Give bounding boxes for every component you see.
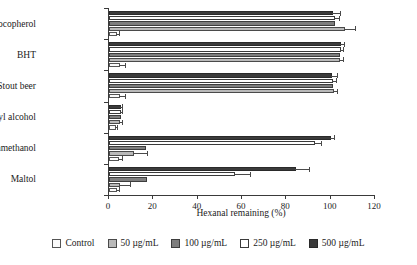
error-bar-cap <box>337 73 338 78</box>
bar <box>109 73 332 77</box>
x-axis-title: Hexanal remaining (%) <box>108 208 374 218</box>
error-bar-cap <box>336 78 337 83</box>
x-tick <box>152 195 153 199</box>
bar <box>109 79 333 83</box>
error-bar-line <box>314 143 321 144</box>
bar-chart-figure: Alpha-tocopherolBHTStout beerPhenylethyl… <box>0 0 417 265</box>
error-bar-cap <box>343 57 344 62</box>
y-tick <box>104 195 108 196</box>
bar <box>109 146 146 150</box>
error-bar-cap <box>343 47 344 52</box>
bar <box>109 53 340 57</box>
x-tick <box>241 195 242 199</box>
plot-area <box>108 8 374 195</box>
error-bar-cap <box>147 151 148 156</box>
bar <box>109 47 341 51</box>
error-bar-line <box>133 153 146 154</box>
x-tick <box>285 195 286 199</box>
legend-label: 500 µg/mL <box>322 238 365 248</box>
error-bar-cap <box>122 156 123 161</box>
x-tick <box>108 195 109 199</box>
error-bar-cap <box>334 135 335 140</box>
y-tick <box>104 39 108 40</box>
chart-legend: Control50 µg/mL100 µg/mL250 µg/mL500 µg/… <box>0 238 417 248</box>
error-bar-cap <box>337 89 338 94</box>
error-bar-line <box>295 169 308 170</box>
bar <box>109 167 296 171</box>
bar <box>109 21 335 25</box>
legend-label: 250 µg/mL <box>253 238 296 248</box>
swatch-100-icon <box>171 239 180 248</box>
error-bar-cap <box>250 172 251 177</box>
bar <box>109 42 341 46</box>
swatch-500-icon <box>309 239 318 248</box>
category-label: Phenylethyl alcohol <box>0 112 36 122</box>
category-label: Alpha-tocopherol <box>0 19 36 29</box>
category-label: Maltol <box>0 174 36 184</box>
error-bar-line <box>332 13 340 14</box>
error-bar-cap <box>117 125 118 130</box>
y-tick <box>104 102 108 103</box>
legend-item[interactable]: 50 µg/mL <box>108 238 159 248</box>
bar <box>109 151 134 155</box>
bar <box>109 58 340 62</box>
bar <box>109 141 315 145</box>
error-bar-cap <box>125 94 126 99</box>
error-bar-line <box>331 76 338 77</box>
error-bar-cap <box>344 42 345 47</box>
category-label: Stout beer <box>0 81 36 91</box>
swatch-250-icon <box>240 239 249 248</box>
bar <box>109 136 331 140</box>
y-tick <box>104 164 108 165</box>
x-tick <box>374 195 375 199</box>
x-tick <box>330 195 331 199</box>
bar <box>109 16 335 20</box>
bar <box>109 11 333 15</box>
error-bar-cap <box>339 16 340 21</box>
category-label: 2-furanmethanol <box>0 143 36 153</box>
error-bar-cap <box>122 120 123 125</box>
legend-item[interactable]: 250 µg/mL <box>240 238 296 248</box>
legend-label: 50 µg/mL <box>121 238 159 248</box>
error-bar-cap <box>122 109 123 114</box>
bar <box>109 115 121 119</box>
y-tick <box>104 133 108 134</box>
error-bar-line <box>119 185 130 186</box>
y-tick <box>104 8 108 9</box>
legend-label: 100 µg/mL <box>184 238 227 248</box>
error-bar-line <box>344 29 355 30</box>
error-bar-cap <box>309 167 310 172</box>
error-bar-cap <box>355 26 356 31</box>
y-tick <box>104 70 108 71</box>
bar <box>109 172 235 176</box>
bar <box>109 177 147 181</box>
legend-item[interactable]: 100 µg/mL <box>171 238 227 248</box>
x-tick <box>197 195 198 199</box>
error-bar-cap <box>340 11 341 16</box>
swatch-control-icon <box>52 239 61 248</box>
bar <box>109 89 334 93</box>
error-bar-cap <box>119 31 120 36</box>
error-bar-line <box>234 174 250 175</box>
error-bar-cap <box>321 141 322 146</box>
legend-label: Control <box>65 238 94 248</box>
legend-item[interactable]: 500 µg/mL <box>309 238 365 248</box>
legend-item[interactable]: Control <box>52 238 94 248</box>
category-label: BHT <box>0 50 36 60</box>
error-bar-cap <box>130 182 131 187</box>
bar <box>109 27 345 31</box>
bar <box>109 84 333 88</box>
error-bar-cap <box>119 187 120 192</box>
error-bar-cap <box>125 63 126 68</box>
swatch-50-icon <box>108 239 117 248</box>
